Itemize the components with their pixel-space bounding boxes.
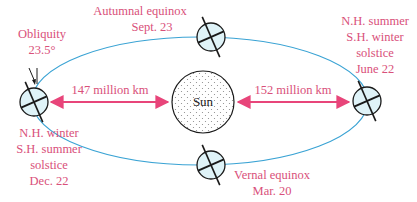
earth-december	[12, 76, 55, 128]
perihelion-label: 147 million km	[71, 83, 148, 97]
svg-text:Vernal equinox: Vernal equinox	[234, 168, 311, 182]
perihelion-distance: 147 million km	[51, 83, 168, 102]
svg-text:N.H. summer: N.H. summer	[341, 14, 410, 28]
svg-text:Autumnal equinox: Autumnal equinox	[93, 4, 187, 18]
december-solstice-label: N.H. winter S.H. summer solstice Dec. 22	[16, 126, 82, 188]
svg-text:solstice: solstice	[356, 46, 394, 60]
svg-text:Sept. 23: Sept. 23	[132, 20, 173, 34]
vernal-label: Vernal equinox Mar. 20	[234, 168, 311, 198]
orbit-diagram: Sun 147 million km 152 million km Obliqu…	[0, 0, 417, 202]
svg-text:S.H. summer: S.H. summer	[16, 142, 82, 156]
svg-text:S.H. winter: S.H. winter	[346, 30, 404, 44]
svg-text:solstice: solstice	[30, 158, 68, 172]
svg-text:Dec. 22: Dec. 22	[30, 174, 69, 188]
svg-text:Mar. 20: Mar. 20	[253, 184, 292, 198]
aphelion-label: 152 million km	[254, 83, 331, 97]
obliquity-label-2: 23.5°	[29, 43, 56, 57]
obliquity-indicator: Obliquity 23.5°	[18, 27, 67, 85]
svg-text:June 22: June 22	[356, 62, 395, 76]
svg-text:N.H. winter: N.H. winter	[19, 126, 79, 140]
autumnal-label: Autumnal equinox Sept. 23	[93, 4, 187, 34]
earth-june	[345, 75, 388, 127]
sun-label: Sun	[193, 94, 214, 109]
aphelion-distance: 152 million km	[238, 83, 349, 102]
june-solstice-label: N.H. summer S.H. winter solstice June 22	[341, 14, 410, 76]
sun: Sun	[172, 71, 234, 133]
obliquity-label-1: Obliquity	[18, 27, 67, 41]
